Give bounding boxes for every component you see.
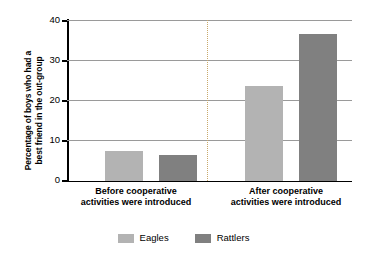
y-tick-40: 40 [38, 15, 60, 25]
y-tick-label-40: 40 [38, 15, 60, 25]
y-tick-20: 20 [38, 95, 60, 105]
tick-mark-30 [62, 60, 67, 62]
bar-before-rattlers [159, 155, 197, 181]
bar-after-rattlers [299, 34, 337, 181]
legend-item-eagles: Eagles [118, 233, 169, 243]
tick-mark-10 [62, 140, 67, 142]
y-tick-0: 0 [38, 175, 60, 185]
legend: Eagles Rattlers [0, 233, 367, 243]
legend-swatch-rattlers [195, 234, 211, 243]
y-tick-label-10: 10 [38, 135, 60, 145]
plot-area [67, 20, 352, 181]
y-tick-label-0: 0 [38, 175, 60, 185]
category-label-after: After cooperative activities were introd… [212, 186, 360, 208]
legend-item-rattlers: Rattlers [195, 233, 250, 243]
tick-mark-0 [62, 180, 67, 182]
legend-label-eagles: Eagles [140, 233, 169, 243]
bar-before-eagles [105, 151, 143, 181]
bar-chart: Percentage of boys who had a best friend… [0, 0, 367, 258]
y-tick-label-30: 30 [38, 55, 60, 65]
gridline-40 [67, 20, 352, 21]
legend-swatch-eagles [118, 234, 134, 243]
tick-mark-20 [62, 100, 67, 102]
legend-label-rattlers: Rattlers [217, 233, 250, 243]
bar-after-eagles [245, 86, 283, 181]
y-tick-label-20: 20 [38, 95, 60, 105]
y-tick-10: 10 [38, 135, 60, 145]
group-divider [207, 20, 208, 181]
tick-mark-40 [62, 20, 67, 22]
category-label-before: Before cooperative activities were intro… [62, 186, 210, 208]
y-tick-30: 30 [38, 55, 60, 65]
